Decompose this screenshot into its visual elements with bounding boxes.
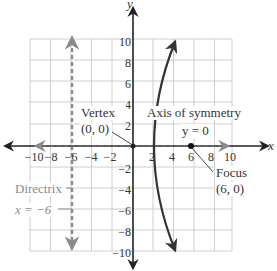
x-tick: −10	[25, 150, 44, 164]
vertex-leader-line	[112, 132, 131, 144]
x-tick: 10	[224, 150, 236, 164]
y-tick: 10	[119, 35, 131, 49]
y-tick: −2	[118, 162, 131, 176]
y-axis-label: y	[125, 0, 133, 11]
axis-of-symmetry-equation: y = 0	[182, 123, 209, 138]
vertex-point	[131, 144, 136, 149]
axis-of-symmetry-label: Axis of symmetry	[147, 105, 241, 120]
vertex-coords: (0, 0)	[81, 121, 109, 136]
x-tick: −8	[45, 150, 58, 164]
y-tick: 6	[125, 77, 131, 91]
directrix-label: Directrix	[15, 181, 62, 196]
y-tick: 2	[125, 119, 131, 133]
x-tick: 4	[169, 150, 175, 164]
x-tick: 2	[149, 150, 155, 164]
focus-point	[188, 143, 194, 149]
x-tick: 6	[188, 150, 194, 164]
parabola-diagram: y x −10 −8 −6 −4 −2 2 4 6 8 10 10 8 6 4 …	[0, 0, 277, 271]
x-axis-label: x	[267, 138, 274, 153]
x-tick: −2	[104, 150, 117, 164]
focus-coords: (6, 0)	[216, 181, 244, 196]
x-tick: −6	[65, 150, 78, 164]
y-tick: 8	[125, 56, 131, 70]
directrix-equation: x = −6	[14, 202, 52, 217]
y-tick-labels: 10 8 6 4 2 −2 −4 −6 −8 −10	[112, 35, 131, 260]
y-tick: −8	[118, 225, 131, 239]
y-tick: −6	[118, 204, 131, 218]
y-tick: −4	[118, 183, 131, 197]
x-tick: −4	[85, 150, 98, 164]
x-tick: 8	[208, 150, 214, 164]
focus-label: Focus	[216, 165, 247, 180]
vertex-label: Vertex	[81, 105, 115, 120]
y-tick: −10	[112, 246, 131, 260]
